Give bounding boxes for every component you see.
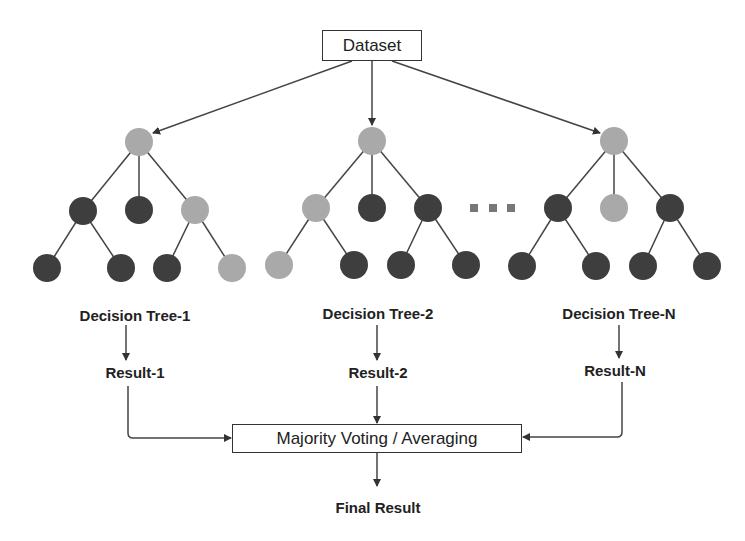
tree-n-label: Decision Tree-N (562, 305, 675, 322)
result-2-label: Result-2 (348, 364, 407, 381)
tree-1-label: Decision Tree-1 (80, 307, 191, 324)
dataset-to-treeN-arrow (392, 61, 600, 133)
result-1-label: Result-1 (105, 364, 164, 381)
diagram-graphics (0, 0, 745, 541)
tree-2-label: Decision Tree-2 (323, 305, 434, 322)
result-n-label: Result-N (584, 362, 646, 379)
tree-1-nodes (33, 128, 246, 282)
resultN-to-aggregator-arrow (523, 382, 622, 437)
aggregator-box: Majority Voting / Averaging (232, 424, 522, 453)
result1-to-aggregator-arrow (128, 386, 231, 438)
dataset-label: Dataset (343, 36, 402, 56)
tree-2-nodes (265, 127, 480, 279)
dataset-to-tree1-arrow (153, 61, 352, 133)
tree-n-nodes (508, 127, 721, 280)
ellipsis-icon (470, 204, 515, 212)
dataset-box: Dataset (322, 30, 422, 61)
final-result-label: Final Result (335, 499, 420, 516)
aggregator-label: Majority Voting / Averaging (277, 429, 478, 449)
